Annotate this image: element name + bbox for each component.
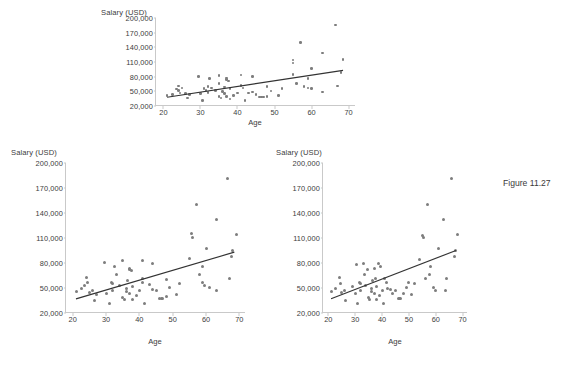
figure-caption: Figure 11.27 <box>503 178 551 188</box>
x-axis-title-bottom-right: Age <box>365 337 425 346</box>
x-tick-mark <box>355 313 356 316</box>
y-axis-title-bottom-right: Salary (USD) <box>276 148 322 157</box>
x-tick-mark <box>408 313 409 316</box>
y-tick-label: 80,000 <box>297 259 323 268</box>
y-tick-label: 50,000 <box>297 284 323 293</box>
scatter-chart-bottom-right: Salary (USD)Age20,00050,00080,000110,000… <box>0 0 583 368</box>
x-tick-mark <box>328 313 329 316</box>
x-tick-mark <box>382 313 383 316</box>
trend-line-bottom-right <box>323 163 467 312</box>
y-tick-label: 200,000 <box>293 159 323 168</box>
plot-area-bottom-right: 20,00050,00080,000110,000140,000170,0002… <box>322 163 467 313</box>
y-tick-label: 170,000 <box>293 184 323 193</box>
figure-container: Salary (USD)Age20,00050,00080,000110,000… <box>0 0 583 368</box>
x-tick-mark <box>435 313 436 316</box>
y-tick-label: 20,000 <box>297 309 323 318</box>
y-tick-label: 110,000 <box>293 234 323 243</box>
y-tick-mark <box>321 313 324 314</box>
y-tick-label: 140,000 <box>293 209 323 218</box>
x-tick-mark <box>462 313 463 316</box>
